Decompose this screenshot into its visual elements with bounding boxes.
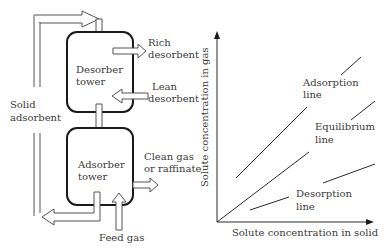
desorption-line-label-2: line [296,201,315,212]
desorption-line-label-1: Desorption [296,188,353,199]
operating-line-graph: Solute concentration in gas Solute conce… [199,31,379,238]
adsorption-line-lower [236,107,307,178]
clean-gas-label-2: or raffinate [144,163,201,174]
rich-desorbent-label-2: desorbent [148,49,199,60]
adsorption-desorption-diagram: Desorber tower Rich desorbent Lean desor… [0,0,391,249]
lean-desorbent-label-1: Lean [152,81,178,92]
x-axis-label: Solute concentration in solid [232,227,379,238]
adsorption-line-upper [341,57,361,75]
desorber-label-1: Desorber [76,64,123,75]
rich-desorbent-label-1: Rich [148,37,171,48]
solid-adsorbent-label-2: adsorbent [10,112,61,123]
y-axis-arrowhead-icon [214,31,220,39]
desorption-line-lower [250,197,289,210]
equilibrium-line-upper [351,101,375,120]
top-feed-arrow-icon [34,11,99,27]
clean-gas-arrow-icon [133,178,158,192]
lean-desorbent-label-2: desorbent [148,93,199,104]
adsorption-line-label-2: line [303,89,322,100]
x-axis-arrowhead-icon [366,219,374,225]
equilibrium-line-label-1: Equilibrium [315,121,376,132]
clean-gas-label-1: Clean gas [144,151,194,162]
adsorber-label-2: tower [78,171,108,182]
process-flow-diagram: Desorber tower Rich desorbent Lean desor… [10,11,201,243]
y-axis-label: Solute concentration in gas [199,47,210,187]
feed-gas-arrow-icon [112,193,126,230]
solid-adsorbent-label-1: Solid [10,99,36,110]
desorption-line-upper [323,164,375,183]
adsorber-label-1: Adsorber [77,159,125,170]
equilibrium-line-label-2: line [315,134,334,145]
desorber-label-2: tower [76,76,106,87]
adsorption-line-label-1: Adsorption [302,77,359,88]
feed-gas-label: Feed gas [99,232,144,243]
